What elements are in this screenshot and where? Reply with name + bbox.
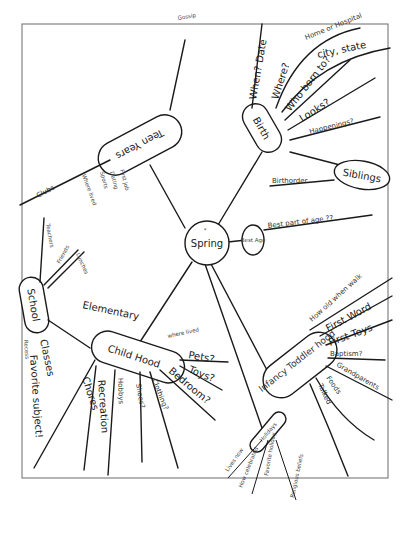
text-birthorder: Birthorder — [272, 177, 308, 185]
text-teachers: Teachers — [45, 222, 55, 248]
text-when: When? Date — [247, 38, 268, 100]
text-hobbys: Hobbys — [116, 378, 125, 405]
text-elementary: Elementary — [82, 299, 141, 322]
text-baptism: Baptism? — [330, 350, 363, 358]
connector-teen-top — [170, 40, 185, 110]
text-clubs: Clubs — [35, 183, 56, 199]
connector-teen — [150, 165, 185, 228]
connector-teachers — [40, 218, 44, 282]
mind-map-canvas: Teen Years Clubs Where lived Sports Dati… — [0, 0, 412, 535]
connector-siblings — [290, 152, 340, 165]
text-shoes: Shoes? — [134, 383, 146, 409]
connector-holidays — [205, 264, 262, 428]
node-best-age[interactable]: Best Age — [241, 225, 266, 255]
connector-school-childhood — [48, 320, 90, 348]
connector-infancy — [210, 262, 268, 372]
text-pets: Pets? — [188, 349, 216, 364]
text-recess: Recess — [23, 340, 30, 360]
text-teen-lived: Where lived — [81, 173, 98, 206]
text-looks: Looks? — [297, 96, 332, 123]
text-happenings: Happenings? — [309, 117, 355, 136]
text-first-job: First job — [118, 169, 131, 192]
connector-birth — [218, 152, 262, 225]
node-center-spring[interactable]: * Spring — [185, 221, 229, 265]
text-best-part: Best part of age ?? — [267, 214, 334, 230]
text-grandparents: Grandparents — [335, 361, 381, 392]
node-teen-years[interactable]: Teen Years — [92, 109, 187, 181]
text-lunches: Lunches — [75, 252, 90, 275]
label-best-age: Best Age — [241, 237, 266, 244]
node-birth[interactable]: Birth — [238, 99, 287, 157]
node-siblings[interactable]: Siblings — [332, 156, 392, 193]
text-religious: Religious beliefs — [289, 453, 305, 498]
text-lives-now: Lives now — [224, 446, 245, 472]
text-where-lived: where lived — [167, 326, 199, 338]
text-friends: Friends — [56, 244, 71, 264]
connector-baptism — [328, 358, 385, 360]
text-fav-subject: Favorite subject! — [28, 354, 45, 438]
label-spring: Spring — [191, 238, 223, 249]
center-mark: * — [204, 227, 207, 233]
text-gossip: Gossip — [177, 12, 197, 22]
